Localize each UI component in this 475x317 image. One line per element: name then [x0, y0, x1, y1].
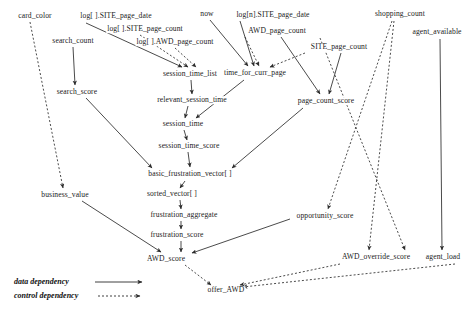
- node-awd_score[interactable]: AWD_score: [146, 255, 186, 263]
- edge-search_count-to-search_score: [73, 47, 75, 85]
- edge-awd_score-to-offer_awd: [185, 265, 211, 285]
- node-business_value[interactable]: business_value: [40, 191, 89, 199]
- node-frustration_score[interactable]: frustration_score: [149, 231, 204, 239]
- edges: [30, 20, 455, 287]
- node-sorted_vector[interactable]: sorted_vector[ ]: [146, 190, 198, 198]
- edge-log_awd_page_count-to-session_time_list: [175, 48, 196, 67]
- edge-agent_load-to-offer_awd: [243, 264, 455, 287]
- edge-now-to-time_for_curr_page: [210, 20, 248, 66]
- dependency-graph-canvas: card_colorlog[ ].SITE_page_datenowlog[n]…: [0, 0, 475, 317]
- node-card_color[interactable]: card_color: [17, 12, 52, 20]
- edge-sorted_vector-to-frustration_aggregate: [180, 200, 181, 209]
- node-log_awd_page_count[interactable]: log[ ].AWD_page_count: [136, 38, 215, 46]
- node-session_time_score[interactable]: session_time_score: [158, 142, 221, 150]
- node-time_for_curr_page[interactable]: time_for_curr_page: [223, 69, 287, 77]
- node-opportunity_score[interactable]: opportunity_score: [296, 212, 355, 220]
- node-page_count_score[interactable]: page_count_score: [297, 97, 355, 105]
- edge-basic_frustration_vector-to-sorted_vector: [180, 181, 185, 188]
- edge-page_count_score-to-basic_frustration_vector: [232, 108, 303, 168]
- node-site_page_count[interactable]: SITE_page_count: [310, 43, 368, 51]
- edge-session_time_list-to-relevant_session_time: [191, 80, 192, 94]
- edge-shopping_count-to-awd_override_score: [369, 21, 394, 250]
- node-awd_page_count[interactable]: AWD_page_count: [247, 27, 307, 35]
- node-now[interactable]: now: [199, 10, 214, 18]
- edge-search_score-to-basic_frustration_vector: [86, 98, 152, 168]
- node-basic_frustration_vector[interactable]: basic_frustration_vector[ ]: [147, 170, 232, 178]
- edge-card_color-to-business_value: [30, 22, 63, 188]
- edge-opportunity_score-to-awd_score: [192, 219, 290, 253]
- node-search_count[interactable]: search_count: [51, 37, 94, 45]
- edge-awd_page_count-to-time_for_curr_page: [245, 37, 259, 66]
- node-session_time[interactable]: session_time: [162, 120, 204, 128]
- legend-label-dashed: control dependency: [14, 292, 78, 300]
- edge-session_time-to-session_time_score: [184, 130, 187, 140]
- node-awd_override_score[interactable]: AWD_override_score: [341, 253, 411, 261]
- node-relevant_session_time[interactable]: relevant_session_time: [156, 96, 228, 104]
- edge-agent_available-to-agent_load: [440, 39, 442, 250]
- edge-session_time_score-to-basic_frustration_vector: [188, 152, 190, 167]
- edge-layer: [0, 0, 475, 317]
- node-frustration_aggregate[interactable]: frustration_aggregate: [149, 211, 218, 219]
- legend-label-solid: data dependency: [14, 278, 69, 286]
- node-log_site_page_count[interactable]: log[ ].SITE_page_count: [106, 25, 184, 33]
- edge-relevant_session_time-to-session_time: [185, 106, 188, 118]
- edge-business_value-to-awd_score: [82, 201, 161, 252]
- node-log_n_site_page_date[interactable]: log[n].SITE_page_date: [235, 11, 310, 19]
- node-search_score[interactable]: search_score: [56, 88, 98, 96]
- node-offer_awd[interactable]: offer_AWD: [207, 286, 246, 294]
- edge-site_page_count-to-page_count_score: [329, 53, 341, 94]
- node-shopping_count[interactable]: shopping_count: [374, 10, 426, 18]
- node-session_time_list[interactable]: session_time_list: [162, 70, 218, 78]
- node-log_site_page_date[interactable]: log[ ].SITE_page_date: [79, 12, 152, 20]
- node-agent_load[interactable]: agent_load: [425, 253, 461, 261]
- node-agent_available[interactable]: agent_available: [411, 28, 462, 36]
